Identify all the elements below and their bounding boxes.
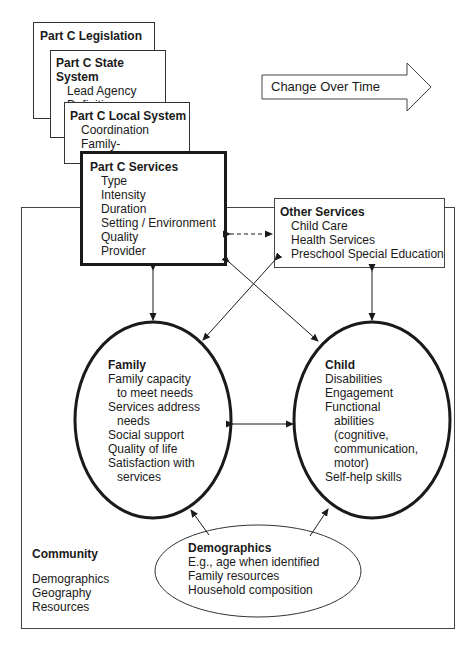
family-item: needs	[108, 414, 200, 428]
community-text: Community Demographics Geography Resourc…	[32, 547, 109, 614]
child-item: communication,	[325, 442, 418, 456]
family-item: Social support	[108, 428, 200, 442]
family-title: Family	[108, 358, 200, 372]
family-item: Quality of life	[108, 442, 200, 456]
demographics-item: Household composition	[188, 583, 319, 597]
demographics-item: E.g., age when identified	[188, 555, 319, 569]
child-title: Child	[325, 358, 418, 372]
arrow-demographics-family	[191, 510, 209, 535]
demographics-title: Demographics	[188, 541, 319, 555]
family-item: to meet needs	[108, 386, 200, 400]
arrow-other-services-family	[203, 260, 275, 340]
family-item: Services address	[108, 400, 200, 414]
child-item: Functional	[325, 400, 418, 414]
child-item: abilities	[325, 414, 418, 428]
child-item: Engagement	[325, 386, 418, 400]
demographics-text: Demographics E.g., age when identified F…	[188, 541, 319, 597]
child-text: Child Disabilities Engagement Functional…	[325, 358, 418, 484]
change-over-time-label: Change Over Time	[271, 80, 380, 94]
family-text: Family Family capacity to meet needs Ser…	[108, 358, 200, 484]
community-item: Geography	[32, 586, 109, 600]
arrow-demographics-child	[310, 509, 328, 536]
child-item: Disabilities	[325, 372, 418, 386]
family-item: Satisfaction with	[108, 456, 200, 470]
family-item: Family capacity	[108, 372, 200, 386]
demographics-item: Family resources	[188, 569, 319, 583]
community-item: Demographics	[32, 572, 109, 586]
child-item: (cognitive,	[325, 428, 418, 442]
family-item: services	[108, 470, 200, 484]
child-item: motor)	[325, 456, 418, 470]
community-item: Resources	[32, 600, 109, 614]
community-title: Community	[32, 547, 109, 561]
arrow-services-child	[229, 262, 318, 341]
child-item: Self-help skills	[325, 470, 418, 484]
